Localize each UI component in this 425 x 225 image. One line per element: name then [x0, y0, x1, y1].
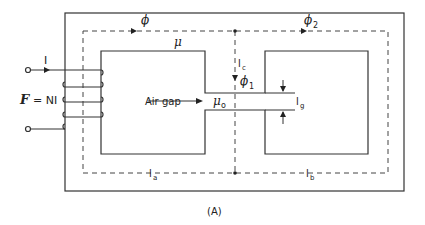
flux-arrow-1	[232, 75, 238, 81]
current-arrow	[44, 67, 50, 73]
label-mmf: F	[19, 92, 30, 107]
label-lb: l	[306, 168, 309, 179]
label-mmf-eq: = NI	[33, 94, 57, 107]
air-gap-arrow	[196, 98, 203, 104]
label-la: l	[149, 168, 152, 179]
label-current: I	[44, 54, 47, 67]
flux-arrow-2	[301, 28, 307, 34]
label-mu-0-sub: o	[221, 101, 226, 110]
label-la-sub: a	[153, 174, 157, 182]
label-lc-sub: c	[242, 64, 246, 72]
terminal-bottom[interactable]	[26, 127, 31, 132]
junction-bottom	[233, 171, 237, 175]
label-lg: l	[296, 96, 299, 107]
junction-top	[233, 29, 237, 33]
label-flux-2: ϕ	[304, 13, 312, 27]
figure-caption: (A)	[207, 206, 222, 217]
label-permeability: μ	[174, 35, 182, 49]
label-flux-total: ϕ	[141, 13, 149, 27]
terminal-top[interactable]	[26, 68, 31, 73]
label-lc: l	[238, 58, 241, 69]
core-outer-boundary	[65, 13, 404, 191]
label-air-gap: Air gap	[145, 96, 181, 107]
gap-dim-arrow-top	[280, 86, 286, 92]
flux-arrow-top	[131, 28, 137, 34]
core-left-window	[101, 51, 368, 154]
label-lb-sub: b	[310, 174, 315, 182]
label-flux-2-sub: 2	[313, 21, 318, 30]
label-flux-1: ϕ	[240, 74, 248, 88]
label-mu-0: μ	[213, 94, 221, 108]
magnetic-circuit-diagram: I F = NI ϕ ϕ 2 ϕ 1 μ Air gap μ o l c l g…	[0, 0, 425, 225]
label-lg-sub: g	[300, 102, 304, 110]
label-flux-1-sub: 1	[249, 82, 254, 91]
gap-dim-arrow-bottom	[280, 111, 286, 117]
